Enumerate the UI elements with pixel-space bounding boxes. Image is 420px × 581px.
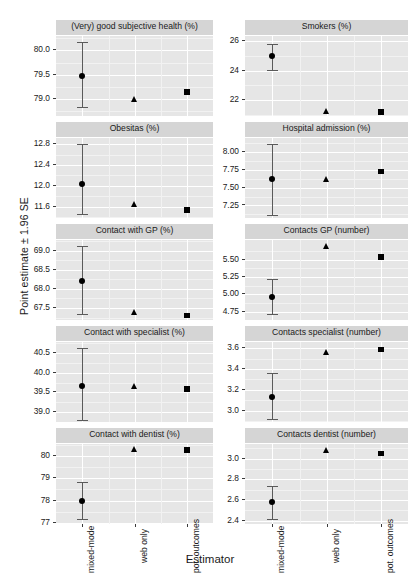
gridline-vertical	[327, 240, 328, 320]
y-axis-tick-label: 68.5	[4, 264, 50, 274]
gridline-vertical-minor	[109, 444, 110, 524]
gridline-vertical-minor	[109, 240, 110, 320]
gridline-vertical-minor	[161, 444, 162, 524]
panel-title: Hospital admission (%)	[245, 123, 408, 133]
y-axis-tick-label: 79.0	[4, 93, 50, 103]
facet-panel: Smokers (%)	[245, 20, 408, 116]
y-axis-tick-label: 39.0	[4, 406, 50, 416]
y-axis-tick	[53, 143, 56, 144]
gridline-vertical-minor	[109, 342, 110, 422]
data-point-square	[184, 386, 190, 392]
y-axis-tick	[53, 391, 56, 392]
error-bar-cap-upper	[77, 42, 88, 43]
y-axis-tick-label: 79.5	[4, 69, 50, 79]
error-bar-cap-lower	[267, 419, 278, 420]
y-axis-tick	[53, 500, 56, 501]
x-axis-tick-label-pot-outcomes: pot. outcomes	[385, 529, 395, 573]
plot-area	[245, 240, 408, 320]
y-axis-tick-label: 12.0	[4, 180, 50, 190]
y-axis-tick	[53, 455, 56, 456]
x-axis-tick-label-mixed-mode: mixed-mode	[86, 529, 96, 573]
error-bar-cap-lower	[267, 314, 278, 315]
facet-panel: Hospital admission (%)	[245, 122, 408, 218]
y-axis-tick	[53, 307, 56, 308]
data-point-square	[378, 347, 384, 353]
panel-strip: (Very) good subjective health (%)	[56, 20, 213, 35]
data-point-triangle	[131, 383, 137, 389]
plot-area	[56, 36, 213, 116]
y-axis-tick-label: 5.50	[193, 254, 239, 264]
y-axis-tick	[53, 250, 56, 251]
y-axis-tick-label: 7.25	[193, 200, 239, 210]
y-axis-tick-label: 8.00	[193, 146, 239, 156]
y-axis-tick	[53, 98, 56, 99]
panel-title: Contact with specialist (%)	[56, 327, 213, 337]
facet-panel: Contacts specialist (number)	[245, 326, 408, 422]
facet-panel: Contacts GP (number)	[245, 224, 408, 320]
y-axis-tick	[53, 74, 56, 75]
error-bar-cap-upper	[77, 144, 88, 145]
facet-panel: Contacts dentist (number)	[245, 428, 408, 524]
x-axis-tick	[272, 524, 273, 527]
gridline-vertical	[381, 240, 382, 320]
y-axis-tick	[242, 478, 245, 479]
gridline-vertical-minor	[109, 36, 110, 116]
panel-strip: Contacts GP (number)	[245, 224, 408, 239]
gridline-vertical	[381, 138, 382, 218]
plot-area	[56, 138, 213, 218]
faceted-estimator-figure: Point estimate ± 1.96 SE Estimator (Very…	[0, 0, 420, 581]
y-axis-tick	[242, 187, 245, 188]
error-bar-cap-lower	[267, 215, 278, 216]
y-axis-tick	[242, 368, 245, 369]
panel-strip: Smokers (%)	[245, 20, 408, 35]
data-point-triangle	[131, 201, 137, 207]
error-bar-cap-upper	[267, 279, 278, 280]
plot-area	[245, 342, 408, 422]
panel-title: Contacts specialist (number)	[245, 327, 408, 337]
y-axis-tick	[242, 410, 245, 411]
gridline-vertical-minor	[161, 342, 162, 422]
data-point-circle	[79, 73, 85, 79]
y-axis-tick-label: 12.4	[4, 159, 50, 169]
y-axis-tick-label: 3.0	[193, 453, 239, 463]
y-axis-tick	[53, 477, 56, 478]
y-axis-tick-label: 80.0	[4, 44, 50, 54]
y-axis-tick-label: 5.25	[193, 271, 239, 281]
y-axis-tick	[242, 499, 245, 500]
y-axis-tick	[53, 288, 56, 289]
y-axis-tick	[242, 259, 245, 260]
gridline-vertical	[135, 444, 136, 524]
gridline-vertical-minor	[300, 138, 301, 218]
y-axis-tick	[53, 352, 56, 353]
y-axis-tick-label: 2.4	[193, 515, 239, 525]
data-point-square	[378, 169, 384, 175]
gridline-vertical-minor	[354, 444, 355, 524]
y-axis-tick	[53, 372, 56, 373]
panel-title: Contact with GP (%)	[56, 225, 213, 235]
y-axis-tick-label: 3.6	[193, 342, 239, 352]
x-axis-tick-label-mixed-mode: mixed-mode	[276, 529, 286, 573]
y-axis-tick-label: 77	[4, 517, 50, 527]
y-axis-tick-label: 4.75	[193, 306, 239, 316]
y-axis-tick	[242, 347, 245, 348]
y-axis-tick	[53, 411, 56, 412]
data-point-square	[184, 89, 190, 95]
gridline-vertical	[381, 36, 382, 116]
y-axis-tick	[242, 389, 245, 390]
gridline-vertical	[381, 342, 382, 422]
data-point-triangle	[323, 243, 329, 249]
error-bar-cap-upper	[77, 348, 88, 349]
y-axis-tick-label: 26	[193, 35, 239, 45]
y-axis-tick	[53, 522, 56, 523]
gridline-vertical-minor	[161, 240, 162, 320]
gridline-vertical	[327, 36, 328, 116]
error-bar-cap-upper	[267, 44, 278, 45]
y-axis-tick	[53, 164, 56, 165]
plot-area	[56, 240, 213, 320]
y-axis-tick-label: 67.5	[4, 302, 50, 312]
error-bar-cap-upper	[77, 482, 88, 483]
y-axis-tick-label: 40.0	[4, 367, 50, 377]
data-point-circle	[269, 53, 275, 59]
data-point-circle	[269, 176, 275, 182]
panel-strip: Contact with specialist (%)	[56, 326, 213, 341]
